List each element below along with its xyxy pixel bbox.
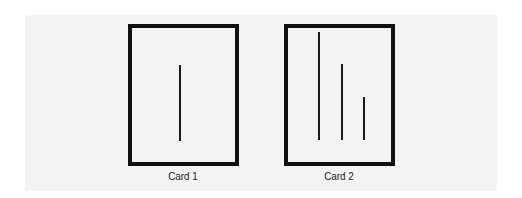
figure-panel xyxy=(25,15,497,191)
card-1 xyxy=(128,24,239,166)
card-1-label: Card 1 xyxy=(134,170,233,182)
card-2-label: Card 2 xyxy=(290,170,389,182)
card-1-line-1 xyxy=(179,65,181,141)
card-2-line-medium xyxy=(341,64,343,140)
card-2 xyxy=(284,24,395,166)
card-2-line-short xyxy=(363,97,365,140)
card-2-line-long xyxy=(318,32,320,140)
